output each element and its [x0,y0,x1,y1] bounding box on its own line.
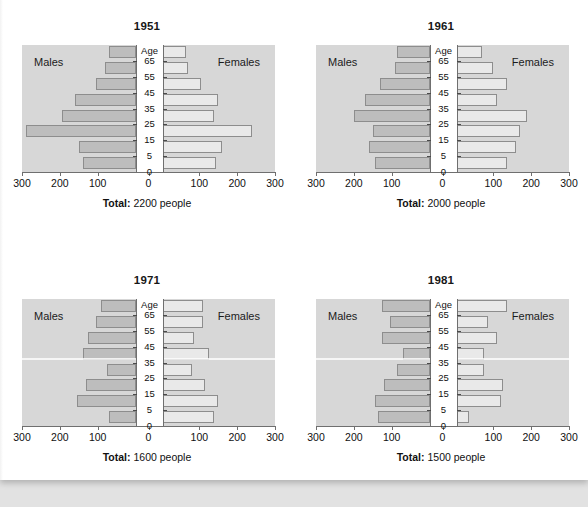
female-bar [456,348,484,360]
age-tick-label: 5 [431,405,457,415]
age-tick-mark [427,140,431,141]
females-label: Females [218,310,260,322]
male-bar [86,379,135,391]
total-caption: Total: 1600 people [0,451,294,463]
age-tick-mark [133,124,137,125]
age-tick-mark [457,93,461,94]
female-bar [456,316,488,328]
female-bar [162,46,187,58]
age-tick-mark [133,109,137,110]
age-tick-label: 5 [137,405,163,415]
total-caption: Total: 1500 people [294,451,588,463]
x-tick-mark [354,172,355,176]
age-tick-mark [133,93,137,94]
female-bar [456,46,482,58]
x-tick-mark [199,426,200,430]
female-bar [456,300,507,312]
age-tick-mark [457,363,461,364]
age-tick-mark [457,61,461,62]
male-bar [96,316,136,328]
female-bar [456,62,494,74]
total-value: 1600 people [133,451,191,463]
x-tick-label: 200 [228,177,246,189]
age-tick-mark [133,315,137,316]
age-tick-mark [457,156,461,157]
male-bar [395,62,429,74]
x-tick-label: 200 [345,431,363,443]
pyramid-grid: 1951Age65554535251550MalesFemales3002001… [0,0,588,480]
x-tick-label: 300 [307,431,325,443]
age-tick-mark [163,363,167,364]
female-bar [456,94,498,106]
x-tick-mark [60,426,61,430]
age-tick-label: 35 [137,358,163,368]
age-tick-label: 35 [431,358,457,368]
male-bar [397,46,429,58]
total-label: Total: [397,197,425,209]
age-tick-mark [133,331,137,332]
age-tick-mark [163,93,167,94]
age-tick-mark [163,347,167,348]
x-tick-label: 100 [89,431,107,443]
female-bar [162,157,217,169]
age-tick-label: 15 [137,389,163,399]
male-bar [75,94,136,106]
males-label: Males [328,56,357,68]
age-tick-label: 65 [137,310,163,320]
age-axis-strip: Age65554535251550 [430,299,458,426]
female-bar [456,125,520,137]
age-tick-label: 0 [431,421,457,431]
x-tick-label: 200 [51,177,69,189]
female-bar [162,411,215,423]
age-axis-strip: Age65554535251550 [136,45,164,172]
pyramid-panel-1981: 1981Age65554535251550MalesFemales3002001… [294,258,588,498]
x-tick-mark [493,426,494,430]
total-label: Total: [103,197,131,209]
age-tick-mark [163,331,167,332]
age-tick-label: 45 [137,88,163,98]
male-bar [390,316,430,328]
age-tick-mark [163,77,167,78]
age-tick-mark [163,378,167,379]
x-tick-label: 300 [307,177,325,189]
age-tick-mark [133,378,137,379]
age-tick-label: 15 [137,135,163,145]
female-bar [162,395,219,407]
x-axis-labels: 3002001000100200300 [0,431,294,445]
age-tick-mark [133,77,137,78]
x-tick-mark [275,426,276,430]
female-bar [162,94,219,106]
x-tick-mark [354,426,355,430]
age-tick-mark [457,331,461,332]
age-tick-label: 25 [431,373,457,383]
x-tick-label: 200 [345,177,363,189]
age-tick-mark [427,109,431,110]
x-axis-labels: 3002001000100200300 [294,431,588,445]
age-tick-mark [457,140,461,141]
panel-title: 1961 [294,20,588,32]
age-tick-mark [427,394,431,395]
total-value: 1500 people [427,451,485,463]
female-bar [456,157,507,169]
x-tick-mark [316,172,317,176]
female-bar [162,348,209,360]
x-tick-mark [199,172,200,176]
x-tick-mark [569,426,570,430]
x-tick-mark [237,172,238,176]
x-tick-label: 100 [383,177,401,189]
x-tick-mark [60,172,61,176]
male-bar [105,62,135,74]
x-axis-labels: 3002001000100200300 [294,177,588,191]
age-tick-label: 65 [431,310,457,320]
female-bar [456,332,498,344]
male-bar [77,395,136,407]
age-tick-label: 65 [431,56,457,66]
female-bar [162,316,204,328]
x-tick-label: 200 [228,431,246,443]
females-label: Females [512,56,554,68]
female-bar [162,364,192,376]
age-tick-mark [427,410,431,411]
total-label: Total: [103,451,131,463]
x-tick-label: 0 [146,177,152,189]
pyramid-panel-1951: 1951Age65554535251550MalesFemales3002001… [0,4,294,244]
